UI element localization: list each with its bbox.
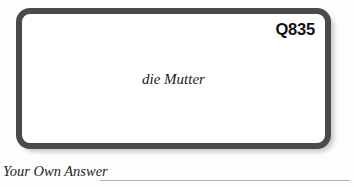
answer-write-in-line[interactable] [100,180,350,181]
answer-row: Your Own Answer [2,163,350,185]
flashcard-box[interactable]: Q835 die Mutter [16,8,331,149]
flashcard-term: die Mutter [22,72,325,87]
flashcard-page: Q835 die Mutter Your Own Answer [0,0,354,187]
flashcard-inner: Q835 die Mutter [22,14,325,143]
your-own-answer-label: Your Own Answer [3,163,108,180]
question-id-badge: Q835 [275,21,315,38]
